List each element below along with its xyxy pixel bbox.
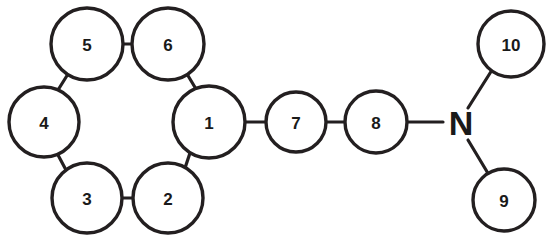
- node-1[interactable]: 1: [173, 86, 245, 158]
- node-7-label: 7: [291, 114, 300, 133]
- node-4-label: 4: [39, 114, 49, 133]
- node-5-label: 5: [82, 36, 91, 55]
- node-3-label: 3: [82, 190, 91, 209]
- graph-diagram: 1 2 3 4 5 6 7: [0, 0, 552, 241]
- node-8-label: 8: [371, 114, 380, 133]
- node-2[interactable]: 2: [133, 163, 203, 233]
- node-8[interactable]: 8: [345, 91, 407, 153]
- node-6-label: 6: [163, 36, 172, 55]
- atom-nitrogen[interactable]: N: [449, 104, 474, 142]
- node-7[interactable]: 7: [266, 92, 326, 152]
- node-5[interactable]: 5: [51, 8, 123, 80]
- node-2-label: 2: [163, 190, 172, 209]
- node-10-label: 10: [502, 36, 521, 55]
- node-9-label: 9: [499, 192, 508, 211]
- node-4[interactable]: 4: [9, 87, 79, 157]
- atom-nitrogen-label: N: [449, 104, 474, 142]
- node-3[interactable]: 3: [52, 163, 122, 233]
- node-9[interactable]: 9: [473, 169, 535, 231]
- node-10[interactable]: 10: [478, 11, 544, 77]
- node-1-label: 1: [204, 114, 213, 133]
- node-6[interactable]: 6: [132, 8, 204, 80]
- diagram-canvas: 1 2 3 4 5 6 7: [0, 0, 552, 241]
